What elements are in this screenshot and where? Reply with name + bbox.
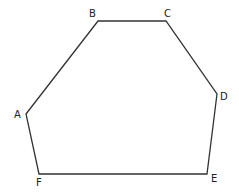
vertex-label-e: E: [211, 173, 217, 184]
vertex-label-f: F: [36, 177, 42, 188]
hexagon-shape: [26, 21, 217, 174]
vertex-label-b: B: [89, 8, 96, 19]
vertex-label-a: A: [14, 109, 21, 120]
vertex-label-d: D: [220, 91, 228, 102]
vertex-label-c: C: [164, 8, 171, 19]
hexagon-diagram: A B C D E F: [0, 0, 239, 193]
